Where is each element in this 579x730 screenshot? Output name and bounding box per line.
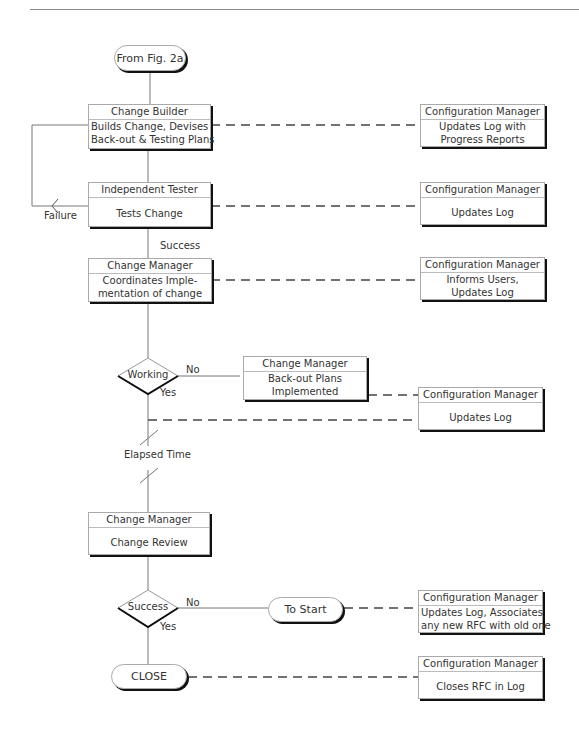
config-2-role: Configuration Manager bbox=[421, 183, 544, 198]
change-review-box: Change Manager Change Review bbox=[88, 512, 210, 555]
config-1-line1: Updates Log with bbox=[421, 120, 544, 134]
working-no-label: No bbox=[186, 364, 200, 375]
config-manager-box-5: Configuration Manager Updates Log, Assoc… bbox=[418, 590, 543, 633]
change-builder-role: Change Builder bbox=[89, 105, 210, 120]
elapsed-time-label: Elapsed Time bbox=[122, 449, 193, 460]
tester-role: Independent Tester bbox=[89, 183, 210, 198]
to-start-label: To Start bbox=[285, 603, 327, 616]
change-builder-box: Change Builder Builds Change, Devises Ba… bbox=[88, 104, 211, 149]
config-manager-box-1: Configuration Manager Updates Log with P… bbox=[420, 104, 545, 147]
start-terminal-label: From Fig. 2a bbox=[116, 52, 183, 65]
config-3-role: Configuration Manager bbox=[421, 258, 544, 273]
close-terminal: CLOSE bbox=[111, 664, 187, 689]
tester-line1: Tests Change bbox=[89, 198, 210, 221]
config-4-role: Configuration Manager bbox=[419, 388, 542, 403]
review-role: Change Manager bbox=[89, 513, 209, 528]
config-3-line2: Updates Log bbox=[421, 287, 544, 300]
backout-plans-box: Change Manager Back-out Plans Implemente… bbox=[243, 356, 367, 400]
close-label: CLOSE bbox=[131, 670, 167, 683]
config-manager-box-3: Configuration Manager Informs Users, Upd… bbox=[420, 257, 545, 300]
backout-line2: Implemented bbox=[244, 386, 366, 399]
impl-role: Change Manager bbox=[89, 259, 211, 274]
start-terminal-from-fig-2a: From Fig. 2a bbox=[114, 45, 186, 71]
change-manager-implementation-box: Change Manager Coordinates Imple- mentat… bbox=[88, 258, 212, 302]
success-no-label: No bbox=[186, 597, 200, 608]
review-line1: Change Review bbox=[89, 528, 209, 550]
impl-line2: mentation of change bbox=[89, 288, 211, 301]
config-5-line1: Updates Log, Associates bbox=[419, 606, 542, 620]
config-6-line1: Closes RFC in Log bbox=[419, 672, 542, 694]
config-2-line1: Updates Log bbox=[421, 198, 544, 220]
change-builder-line2: Back-out & Testing Plans bbox=[89, 134, 210, 147]
impl-line1: Coordinates Imple- bbox=[89, 274, 211, 288]
config-manager-box-6: Configuration Manager Closes RFC in Log bbox=[418, 656, 543, 699]
config-3-line1: Informs Users, bbox=[421, 273, 544, 287]
config-1-line2: Progress Reports bbox=[421, 134, 544, 147]
config-manager-box-2: Configuration Manager Updates Log bbox=[420, 182, 545, 225]
independent-tester-box: Independent Tester Tests Change bbox=[88, 182, 211, 227]
success-label: Success bbox=[160, 240, 200, 251]
decision-success: Success bbox=[118, 601, 178, 612]
to-start-terminal: To Start bbox=[268, 597, 343, 622]
config-5-role: Configuration Manager bbox=[419, 591, 542, 606]
config-5-line2: any new RFC with old one bbox=[419, 620, 542, 633]
config-4-line1: Updates Log bbox=[419, 403, 542, 425]
change-builder-line1: Builds Change, Devises bbox=[89, 120, 210, 134]
decision-working: Working bbox=[118, 369, 178, 380]
config-manager-box-4: Configuration Manager Updates Log bbox=[418, 387, 543, 430]
working-yes-label: Yes bbox=[160, 387, 176, 398]
config-6-role: Configuration Manager bbox=[419, 657, 542, 672]
config-1-role: Configuration Manager bbox=[421, 105, 544, 120]
success-yes-label: Yes bbox=[160, 621, 176, 632]
backout-line1: Back-out Plans bbox=[244, 372, 366, 386]
backout-role: Change Manager bbox=[244, 357, 366, 372]
failure-label: Failure bbox=[44, 210, 77, 221]
